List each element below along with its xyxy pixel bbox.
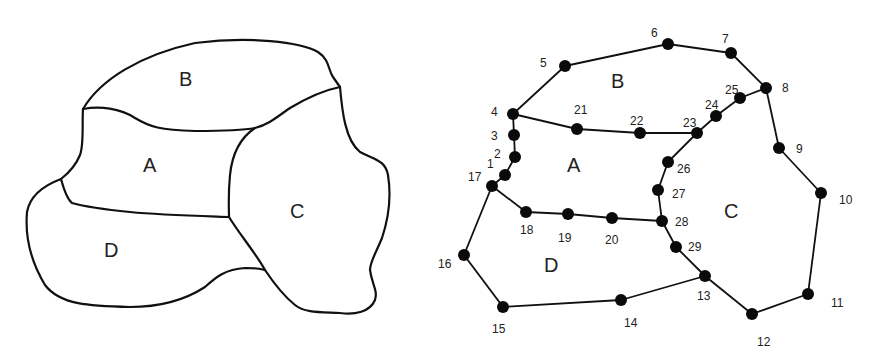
- graph-node-label-18: 18: [520, 223, 534, 237]
- graph-node-label-14: 14: [624, 316, 638, 330]
- graph-node-27: [652, 184, 664, 196]
- graph-node-label-25: 25: [725, 83, 739, 97]
- graph-node-14: [615, 294, 627, 306]
- graph-edge-10-11: [808, 193, 821, 294]
- graph-node-18: [520, 206, 532, 218]
- boundary-b-c: [255, 87, 340, 128]
- graph-node-12: [746, 308, 758, 320]
- graph-edge-14-15: [503, 300, 621, 307]
- graph-node-label-27: 27: [672, 187, 686, 201]
- graph-node-label-3: 3: [491, 129, 498, 143]
- graph-node-label-19: 19: [558, 231, 572, 245]
- graph-node-label-9: 9: [796, 142, 803, 156]
- graph-node-8: [760, 82, 772, 94]
- graph-region-label-b: B: [611, 70, 624, 92]
- graph-edge-15-16: [464, 255, 503, 307]
- graph-node-label-17: 17: [468, 170, 482, 184]
- graph-node-label-21: 21: [574, 103, 588, 117]
- graph-node-label-28: 28: [675, 215, 689, 229]
- boundary-a-d: [61, 179, 229, 217]
- graph-node-1: [499, 169, 511, 181]
- graph-node-label-5: 5: [540, 56, 547, 70]
- graph-node-label-20: 20: [605, 233, 619, 247]
- graph-node-label-7: 7: [722, 32, 729, 46]
- graph-node-label-10: 10: [839, 193, 853, 207]
- graph-node-16: [458, 249, 470, 261]
- graph-node-label-29: 29: [688, 240, 702, 254]
- graph-node-label-22: 22: [630, 114, 644, 128]
- graph-node-label-11: 11: [831, 296, 844, 310]
- graph-edge-17-18: [492, 186, 526, 212]
- graph-edge-23-26: [668, 133, 697, 162]
- map-to-graph-diagram: B A C D 12345678910111213141516171819202…: [0, 0, 875, 363]
- left-region-label-d: D: [104, 239, 118, 261]
- graph-edge-4-5: [513, 66, 565, 114]
- graph-node-label-16: 16: [438, 257, 452, 271]
- graph-node-label-6: 6: [651, 26, 658, 40]
- graph-node-label-15: 15: [492, 322, 506, 336]
- graph-node-13: [699, 270, 711, 282]
- region-map-labels: B A C D: [104, 68, 304, 261]
- graph-edge-5-6: [565, 44, 668, 66]
- graph-edge-12-13: [705, 276, 752, 314]
- graph-node-20: [606, 212, 618, 224]
- left-region-label-c: C: [290, 200, 304, 222]
- graph-edge-11-12: [752, 294, 808, 314]
- boundary-c-d: [229, 217, 265, 270]
- graph-node-22: [634, 127, 646, 139]
- boundary-a-b: [83, 108, 255, 131]
- graph-node-label-1: 1: [487, 157, 494, 171]
- graph-node-29: [670, 241, 682, 253]
- left-region-label-b: B: [179, 68, 192, 90]
- graph-node-11: [802, 288, 814, 300]
- graph-node-26: [662, 156, 674, 168]
- graph-node-17: [486, 180, 498, 192]
- boundary-a-c: [229, 128, 255, 217]
- graph-region-label-a: A: [567, 154, 581, 176]
- graph-edge-19-20: [568, 214, 612, 218]
- graph-node-label-24: 24: [705, 98, 719, 112]
- graph-node-21: [571, 123, 583, 135]
- graph-node-3: [508, 129, 520, 141]
- graph-region-label-c: C: [724, 200, 738, 222]
- graph-region-label-d: D: [544, 254, 558, 276]
- graph-node-6: [662, 38, 674, 50]
- graph-node-7: [725, 47, 737, 59]
- graph-node-label-26: 26: [677, 162, 691, 176]
- graph-nodes: [458, 38, 827, 320]
- graph-edge-21-22: [577, 129, 640, 133]
- region-c-outline: [265, 87, 390, 314]
- graph-edge-8-9: [766, 88, 779, 148]
- graph-node-2: [509, 151, 521, 163]
- graph-edge-4-21: [513, 114, 577, 129]
- graph-node-10: [815, 187, 827, 199]
- graph-edge-16-17: [464, 186, 492, 255]
- graph-edge-20-28: [612, 218, 662, 221]
- graph-node-label-23: 23: [683, 116, 697, 130]
- graph-node-9: [773, 142, 785, 154]
- region-map: [27, 40, 390, 314]
- graph-node-label-4: 4: [491, 105, 498, 119]
- graph-node-label-12: 12: [757, 335, 771, 349]
- graph-node-4: [507, 108, 519, 120]
- graph-node-label-2: 2: [494, 147, 501, 161]
- graph-node-label-8: 8: [782, 81, 789, 95]
- graph-node-label-13: 13: [697, 289, 711, 303]
- graph-node-5: [559, 60, 571, 72]
- graph-node-15: [497, 301, 509, 313]
- boundary-a-left: [61, 109, 83, 179]
- graph-edge-18-19: [526, 212, 568, 214]
- left-region-label-a: A: [143, 154, 157, 176]
- graph-node-19: [562, 208, 574, 220]
- region-b-outline: [83, 40, 340, 109]
- graph-node-28: [656, 215, 668, 227]
- graph-edge-13-14: [621, 276, 705, 300]
